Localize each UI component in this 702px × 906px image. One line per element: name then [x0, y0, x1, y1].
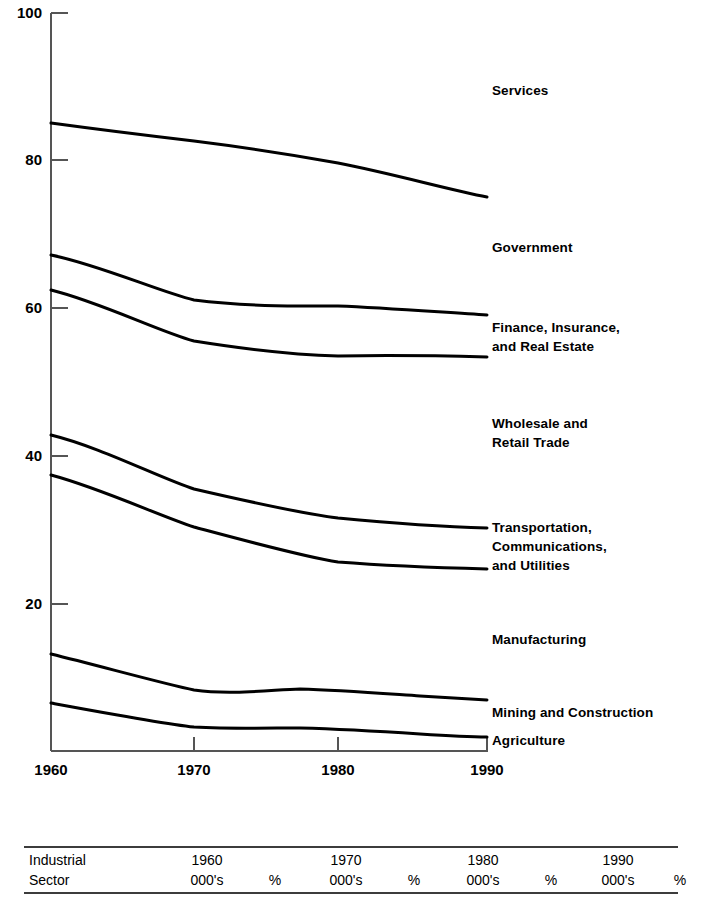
series-label-services: Services	[492, 81, 548, 100]
table-header-unit-1980: 000's	[448, 872, 518, 888]
series-label-transportation: Transportation, Communications, and Util…	[492, 518, 607, 575]
table-header-year-1990: 1990	[583, 852, 653, 868]
table-header-unit-1970: 000's	[311, 872, 381, 888]
x-axis-label-1980: 1980	[308, 761, 368, 778]
table-header-percent-1970: %	[379, 872, 449, 888]
y-axis-label-100: 100	[2, 4, 42, 21]
series-line-manufacturing	[51, 654, 487, 700]
table-header-year-1980: 1980	[448, 852, 518, 868]
x-axis-label-1960: 1960	[21, 761, 81, 778]
table-header-unit-1960: 000's	[172, 872, 242, 888]
series-line-finance	[51, 290, 487, 357]
table-header-year-1960: 1960	[172, 852, 242, 868]
table-rule-top	[24, 846, 678, 848]
series-line-wholesale	[51, 435, 487, 528]
y-axis-label-60: 60	[2, 299, 42, 316]
table-header-year-1970: 1970	[311, 852, 381, 868]
x-axis-label-1970: 1970	[164, 761, 224, 778]
table-rule-bottom	[24, 892, 678, 894]
x-axis-label-1990: 1990	[457, 761, 517, 778]
series-line-government	[51, 255, 487, 315]
series-label-government: Government	[492, 238, 573, 257]
table-header-percent-1980: %	[516, 872, 586, 888]
series-label-agriculture: Agriculture	[492, 731, 565, 750]
chart-plot-svg	[0, 0, 702, 806]
series-label-finance: Finance, Insurance, and Real Estate	[492, 318, 620, 356]
y-axis-label-40: 40	[2, 447, 42, 464]
series-label-wholesale: Wholesale and Retail Trade	[492, 414, 588, 452]
table-header-percent-1960: %	[240, 872, 310, 888]
table-header-sector-line2: Sector	[29, 872, 69, 888]
series-label-mining: Mining and Construction	[492, 703, 653, 722]
series-line-transportation	[51, 475, 487, 569]
table-header-percent-1990: %	[645, 872, 702, 888]
y-axis-label-20: 20	[2, 595, 42, 612]
series-line-mining	[51, 703, 487, 737]
chart-area: 100 80 60 40 20 1960 1970 1980 1990 Serv…	[0, 0, 702, 806]
y-axis-label-80: 80	[2, 151, 42, 168]
series-line-services	[51, 123, 487, 197]
data-table-header: Industrial Sector 1960 000's % 1970 000'…	[0, 806, 702, 906]
table-header-unit-1990: 000's	[583, 872, 653, 888]
table-header-sector-line1: Industrial	[29, 852, 86, 868]
series-label-manufacturing: Manufacturing	[492, 630, 586, 649]
